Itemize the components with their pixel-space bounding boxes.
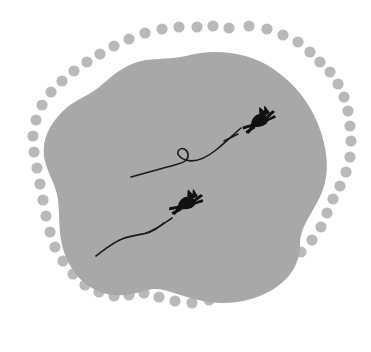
ring-dot [304, 46, 315, 57]
ring-dot [30, 114, 41, 125]
ring-dot [261, 23, 272, 34]
ring-dot [123, 33, 134, 44]
ring-dot [306, 234, 317, 245]
ring-dot [81, 56, 92, 67]
scene-svg [0, 0, 371, 352]
ring-dot [338, 91, 349, 102]
ring-dot [321, 207, 332, 218]
ring-dot [31, 162, 42, 173]
ring-dot [314, 56, 325, 67]
ring-dot [332, 78, 343, 89]
ring-dot [292, 36, 303, 47]
ring-dot [153, 291, 164, 302]
ring-dot [345, 135, 356, 146]
ring-dot [49, 241, 60, 252]
ring-dot [36, 99, 47, 110]
ring-dot [344, 151, 355, 162]
ring-dot [44, 226, 55, 237]
ring-dot [56, 75, 67, 86]
ring-dot [108, 40, 119, 51]
ring-dot [315, 221, 326, 232]
ring-dot [173, 21, 184, 32]
ring-dot [37, 194, 48, 205]
ring-dot [40, 210, 51, 221]
ring-dot [68, 65, 79, 76]
ring-dot [27, 130, 38, 141]
illustration-canvas [0, 0, 371, 352]
ring-dot [207, 20, 218, 31]
ring-dot [45, 86, 56, 97]
ring-dot [324, 66, 335, 77]
ring-dot [327, 193, 338, 204]
ring-dot [342, 105, 353, 116]
ring-dot [340, 166, 351, 177]
ring-dot [94, 48, 105, 59]
ring-dot [277, 29, 288, 40]
ring-dot [169, 295, 180, 306]
ring-dot [334, 180, 345, 191]
ring-dot [344, 120, 355, 131]
ring-dot [139, 27, 150, 38]
ring-dot [223, 22, 234, 33]
ring-dot [156, 23, 167, 34]
ring-dot [243, 20, 254, 31]
ring-dot [191, 21, 202, 32]
ring-dot [34, 178, 45, 189]
ring-dot [28, 146, 39, 157]
